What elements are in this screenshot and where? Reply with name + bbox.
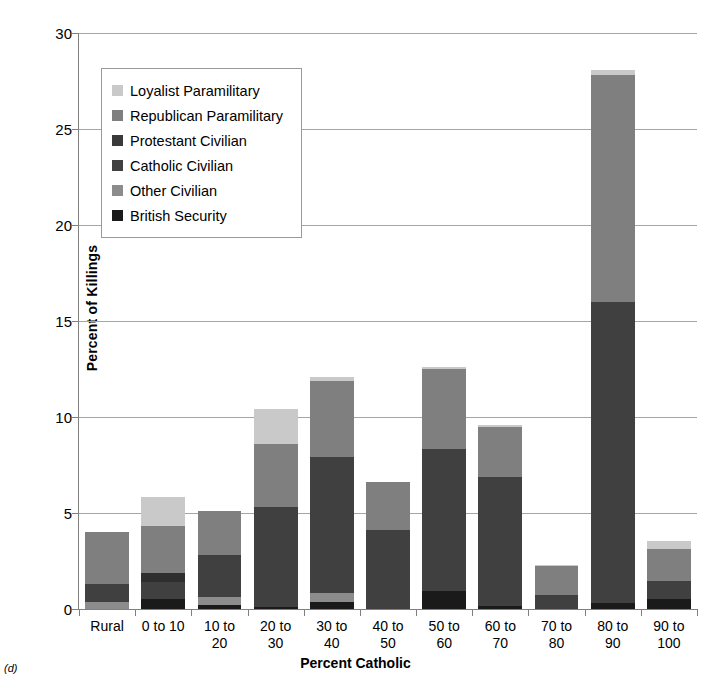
panel-label: (d) <box>4 662 17 674</box>
bar-segment <box>310 602 354 609</box>
x-tick-label-line: 30 to <box>304 618 360 635</box>
bar-segment <box>85 602 129 609</box>
x-tick-label-line: 90 <box>585 635 641 652</box>
bar-stack <box>591 70 635 609</box>
x-tick-label: 70 to80 <box>528 618 584 652</box>
bar-segment <box>85 584 129 602</box>
legend-label: Republican Paramilitary <box>130 108 283 124</box>
bar-segment <box>254 444 298 507</box>
bar-segment <box>478 477 522 607</box>
x-tick-label-line: 90 to <box>641 618 697 635</box>
legend-swatch-icon <box>112 210 123 221</box>
x-tick-label-line: 50 <box>360 635 416 652</box>
bar-stack <box>535 565 579 609</box>
bar-segment <box>535 566 579 595</box>
y-tick-label: 25 <box>36 121 72 138</box>
x-tick-mark <box>416 609 417 616</box>
chart-legend: Loyalist ParamilitaryRepublican Paramili… <box>101 68 302 238</box>
bar-stack <box>254 409 298 609</box>
bar-segment <box>647 549 691 582</box>
bar-segment <box>198 511 242 555</box>
bar-segment <box>198 555 242 596</box>
bar-segment <box>478 606 522 609</box>
bar-stack <box>141 497 185 609</box>
bar-segment <box>85 532 129 584</box>
x-tick-label-line: 80 <box>528 635 584 652</box>
legend-item: Republican Paramilitary <box>112 103 291 128</box>
y-tick-label: 15 <box>36 313 72 330</box>
x-tick-label-line: 80 to <box>585 618 641 635</box>
bar-segment <box>647 581 691 599</box>
x-tick-mark <box>248 609 249 616</box>
x-tick-label-line: 60 to <box>472 618 528 635</box>
legend-item: Loyalist Paramilitary <box>112 78 291 103</box>
x-axis-line <box>78 609 697 610</box>
legend-label: British Security <box>130 208 227 224</box>
x-tick-label: 0 to 10 <box>135 618 191 635</box>
bar-stack <box>647 541 691 609</box>
bar-segment <box>422 449 466 591</box>
y-tick-label: 30 <box>36 25 72 42</box>
x-tick-label: 90 to100 <box>641 618 697 652</box>
bar-segment <box>591 75 635 302</box>
x-tick-mark <box>135 609 136 616</box>
bar-segment <box>141 599 185 609</box>
bar-segment <box>254 507 298 607</box>
bar-segment <box>310 381 354 458</box>
bar-segment <box>647 599 691 609</box>
x-tick-label: 30 to40 <box>304 618 360 652</box>
x-tick-label-line: 70 to <box>528 618 584 635</box>
y-tick-label: 20 <box>36 217 72 234</box>
x-tick-label-line: 50 to <box>416 618 472 635</box>
bar-stack <box>366 482 410 609</box>
y-tick-label: 10 <box>36 409 72 426</box>
x-tick-label-line: 100 <box>641 635 697 652</box>
legend-item: Protestant Civilian <box>112 128 291 153</box>
x-tick-mark <box>528 609 529 616</box>
legend-label: Protestant Civilian <box>130 133 247 149</box>
x-tick-label: 60 to70 <box>472 618 528 652</box>
bar-segment <box>141 582 185 599</box>
bar-segment <box>591 603 635 609</box>
y-tick-label: 0 <box>36 601 72 618</box>
x-tick-label-line: 30 <box>248 635 304 652</box>
legend-item: Catholic Civilian <box>112 153 291 178</box>
legend-swatch-icon <box>112 85 123 96</box>
bar-segment <box>422 591 466 609</box>
x-tick-mark <box>585 609 586 616</box>
x-tick-label-line: 40 to <box>360 618 416 635</box>
bar-segment <box>141 526 185 572</box>
x-tick-mark <box>697 609 698 616</box>
x-tick-mark <box>360 609 361 616</box>
bar-segment <box>141 497 185 527</box>
x-tick-mark <box>641 609 642 616</box>
x-tick-mark <box>79 609 80 616</box>
x-tick-label-line: 20 <box>191 635 247 652</box>
legend-item: Other Civilian <box>112 178 291 203</box>
x-tick-label-line: Rural <box>79 618 135 635</box>
bar-segment <box>198 605 242 609</box>
legend-label: Catholic Civilian <box>130 158 233 174</box>
chart-page: Percent of Killings 051015202530 Rural0 … <box>0 0 711 693</box>
x-tick-label-line: 20 to <box>248 618 304 635</box>
x-tick-label: 80 to90 <box>585 618 641 652</box>
legend-item: British Security <box>112 203 291 228</box>
bar-stack <box>85 532 129 609</box>
legend-swatch-icon <box>112 185 123 196</box>
bar-segment <box>591 302 635 603</box>
x-tick-label-line: 70 <box>472 635 528 652</box>
bar-segment <box>198 597 242 606</box>
x-tick-label-line: 0 to 10 <box>135 618 191 635</box>
bar-stack <box>310 377 354 609</box>
y-axis-tick-labels: 051015202530 <box>28 0 72 693</box>
bar-segment <box>254 409 298 444</box>
legend-swatch-icon <box>112 160 123 171</box>
bar-segment <box>310 457 354 592</box>
bar-segment <box>366 482 410 530</box>
bar-segment <box>310 593 354 603</box>
x-tick-label: 10 to20 <box>191 618 247 652</box>
bar-stack <box>422 367 466 609</box>
x-tick-mark <box>304 609 305 616</box>
y-tick-label: 5 <box>36 505 72 522</box>
x-tick-label: 20 to30 <box>248 618 304 652</box>
